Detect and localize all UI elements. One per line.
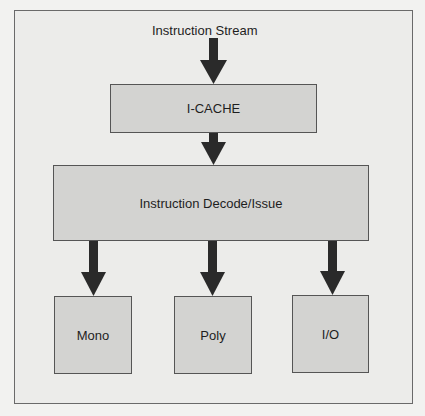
arrows-layer xyxy=(0,0,425,416)
arrow-down-icon xyxy=(200,241,225,296)
arrow-down-icon xyxy=(320,241,345,295)
arrow-down-icon xyxy=(81,241,106,296)
arrow-down-icon xyxy=(201,133,226,165)
arrow-down-icon xyxy=(200,38,227,84)
